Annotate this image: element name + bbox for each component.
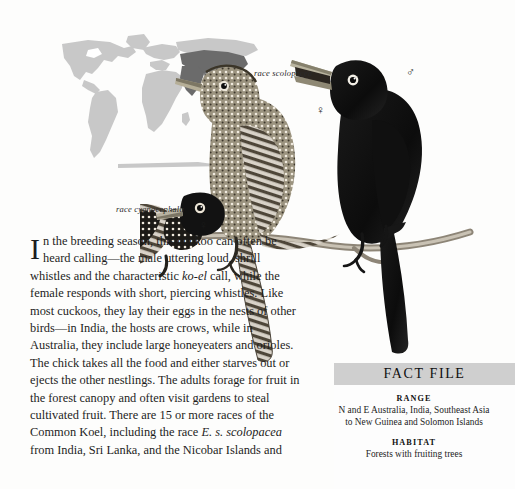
article-body: In the breeding season, this cuckoo can …	[30, 233, 302, 459]
drop-cap: I	[30, 233, 43, 263]
fact-section-habitat: HABITAT Forests with fruiting trees	[334, 438, 494, 460]
world-range-map	[58, 28, 263, 170]
fact-section-gap	[334, 428, 494, 438]
article-text-mid: call, while the female responds with sho…	[30, 269, 300, 440]
map-range-highlight	[180, 50, 258, 150]
female-symbol-scolopacea: ♀	[316, 104, 325, 116]
fact-file-panel: FACT FILE RANGE N and E Australia, India…	[334, 363, 515, 489]
fact-file-body: RANGE N and E Australia, India, Southeas…	[334, 385, 494, 461]
fact-value-habitat: Forests with fruiting trees	[334, 448, 494, 460]
article-italic-call: ko-el	[182, 269, 207, 283]
race-label-scolopacea: race scolopacea	[254, 68, 312, 78]
fact-label-range: RANGE	[334, 394, 494, 403]
fact-file-header: FACT FILE	[334, 363, 515, 385]
race-label-cyanocephala: race cyanocephala	[116, 204, 184, 214]
article-paragraph: In the breeding season, this cuckoo can …	[30, 233, 302, 459]
article-text-end: from India, Sri Lanka, and the Nicobar I…	[30, 443, 282, 457]
male-koel	[290, 60, 422, 354]
female-symbol-cyanocephala: ♀	[199, 219, 208, 231]
fact-section-range: RANGE N and E Australia, India, Southeas…	[334, 394, 494, 428]
fact-label-habitat: HABITAT	[334, 438, 494, 447]
article-italic-race: E. s. scolopacea	[201, 425, 282, 439]
male-symbol: ♂	[406, 66, 415, 78]
fact-value-range: N and E Australia, India, Southeast Asia…	[334, 404, 494, 428]
fact-file-title: FACT FILE	[384, 366, 466, 382]
